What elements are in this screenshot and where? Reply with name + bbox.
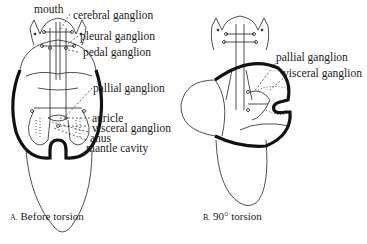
label-pedal-ganglion: pedal ganglion xyxy=(83,46,151,58)
b-foot xyxy=(216,140,267,206)
label-pallial-ganglion-b: pallial ganglion xyxy=(276,51,348,63)
label-pleural-ganglion: pleural ganglion xyxy=(80,30,155,42)
label-mantle-cavity: mantle cavity xyxy=(86,142,148,154)
caption-b-text: 90° torsion xyxy=(213,210,262,222)
label-visceral-ganglion-b: visceral ganglion xyxy=(283,67,362,79)
label-pallial-ganglion-a: pallial ganglion xyxy=(93,82,165,94)
label-mouth: mouth xyxy=(34,3,63,15)
label-cerebral-ganglion: cerebral ganglion xyxy=(73,9,153,21)
b-mantle xyxy=(215,64,290,147)
torsion-diagram xyxy=(0,0,367,244)
caption-a-letter: A. xyxy=(10,213,18,222)
caption-a-text: Before torsion xyxy=(21,210,84,222)
b-head xyxy=(212,16,269,50)
caption-b-letter: B. xyxy=(203,213,210,222)
a-head xyxy=(30,18,86,45)
b-lobe xyxy=(181,80,215,136)
caption-a: A. Before torsion xyxy=(10,210,84,222)
caption-b: B. 90° torsion xyxy=(203,210,262,222)
